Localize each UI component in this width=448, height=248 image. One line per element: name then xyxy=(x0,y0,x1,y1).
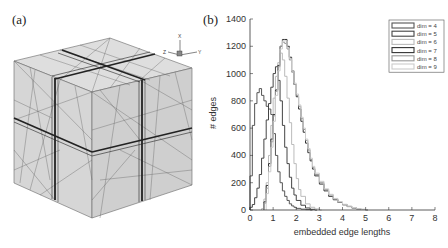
legend-entry-label: dim = 9 xyxy=(417,64,438,70)
legend-entry-label: dim = 4 xyxy=(417,23,438,29)
y-tick-label: 1000 xyxy=(226,69,246,79)
x-tick-label: 4 xyxy=(340,213,345,223)
legend-entry-label: dim = 8 xyxy=(417,56,438,62)
histogram-chart: 0123456780200400600800100012001400 embed… xyxy=(0,0,448,248)
y-tick-label: 800 xyxy=(231,96,246,106)
x-tick-label: 0 xyxy=(247,213,252,223)
x-tick-label: 5 xyxy=(363,213,368,223)
x-tick-label: 3 xyxy=(317,213,322,223)
histogram-series-dim-9 xyxy=(266,41,368,210)
legend-entry-label: dim = 5 xyxy=(417,31,438,37)
x-axis-label: embedded edge lengths xyxy=(294,227,391,237)
y-axis-label: # edges xyxy=(208,96,218,129)
y-tick-label: 1400 xyxy=(226,14,246,24)
x-tick-label: 1 xyxy=(271,213,276,223)
y-tick-label: 400 xyxy=(231,150,246,160)
y-tick-label: 200 xyxy=(231,178,246,188)
histogram-series-dim-8 xyxy=(264,42,368,210)
legend: dim = 4dim = 5dim = 6dim = 7dim = 8dim =… xyxy=(389,20,444,72)
x-tick-label: 2 xyxy=(294,213,299,223)
x-tick-label: 8 xyxy=(432,213,437,223)
legend-entry-label: dim = 7 xyxy=(417,48,438,54)
y-tick-label: 1200 xyxy=(226,41,246,51)
plot-area xyxy=(250,39,368,210)
x-tick-label: 6 xyxy=(386,213,391,223)
legend-entry-label: dim = 6 xyxy=(417,39,438,45)
histogram-series-dim-4 xyxy=(250,89,312,210)
histogram-series-dim-7 xyxy=(264,39,368,210)
y-tick-label: 0 xyxy=(241,205,246,215)
x-tick-label: 7 xyxy=(409,213,414,223)
y-tick-label: 600 xyxy=(231,123,246,133)
